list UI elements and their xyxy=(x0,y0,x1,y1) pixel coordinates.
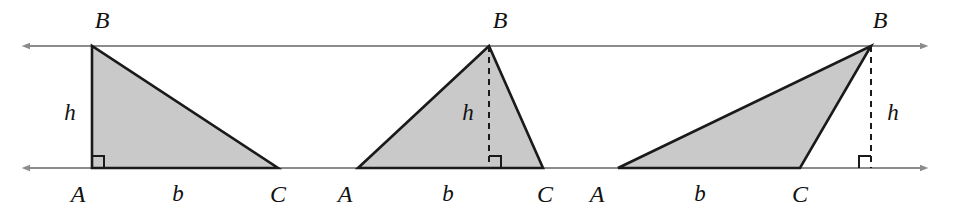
triangle-obtuse-triangle xyxy=(618,46,871,168)
figure-canvas xyxy=(0,0,967,224)
triangle-altitude-figure: BACbhBACbhBACbh xyxy=(0,0,967,224)
height-label-h-3: h xyxy=(887,101,899,124)
right-angle-marker xyxy=(859,156,871,168)
base-label-b-1: b xyxy=(172,182,184,205)
vertex-label-A-2: A xyxy=(338,182,353,206)
vertex-label-B-2: B xyxy=(493,8,508,32)
vertex-label-C-3: C xyxy=(792,182,808,206)
triangle-shape xyxy=(618,46,871,168)
base-label-b-3: b xyxy=(694,182,706,205)
triangle-acute-triangle xyxy=(358,46,543,168)
vertex-label-B-1: B xyxy=(95,8,110,32)
vertex-label-C-1: C xyxy=(270,182,286,206)
height-label-h-1: h xyxy=(64,101,76,124)
triangle-right-triangle xyxy=(92,46,278,168)
vertex-label-A-1: A xyxy=(71,182,86,206)
triangle-shape xyxy=(92,46,278,168)
triangles-group xyxy=(92,46,871,168)
height-label-h-2: h xyxy=(462,101,474,124)
base-label-b-2: b xyxy=(442,182,454,205)
vertex-label-C-2: C xyxy=(537,182,553,206)
vertex-label-A-3: A xyxy=(590,182,605,206)
triangle-shape xyxy=(358,46,543,168)
vertex-label-B-3: B xyxy=(873,8,888,32)
